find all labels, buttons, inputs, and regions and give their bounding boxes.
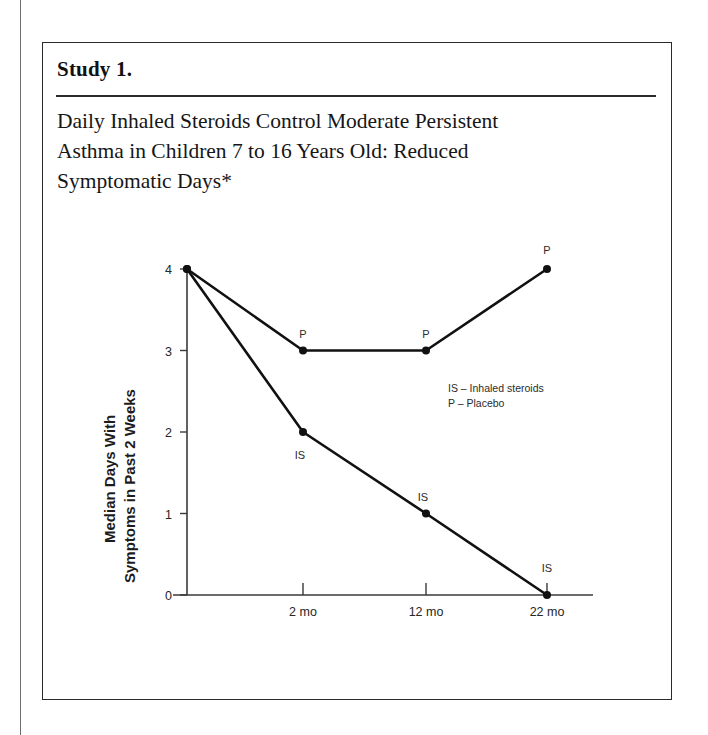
x-tick-label-22mo: 22 mo — [530, 605, 565, 619]
point-label-placebo-2mo: P — [299, 328, 306, 340]
point-label-is-12mo: IS — [418, 491, 428, 503]
data-point-is-2mo — [299, 428, 307, 436]
data-point-placebo-12mo — [422, 347, 430, 355]
data-point-is-12mo — [422, 510, 430, 518]
x-axis-ticks — [303, 583, 547, 595]
y-tick-label-4: 4 — [165, 263, 172, 277]
data-point-is-baseline — [183, 265, 191, 273]
point-label-is-2mo: IS — [295, 449, 305, 461]
y-tick-label-2: 2 — [165, 426, 172, 440]
y-tick-label-1: 1 — [165, 508, 172, 522]
series-points-inhaled-steroids — [183, 265, 551, 599]
series-line-placebo — [187, 269, 547, 351]
y-axis-ticks — [180, 269, 187, 595]
x-tick-label-2mo: 2 mo — [289, 605, 317, 619]
point-label-placebo-12mo: P — [422, 328, 429, 340]
x-tick-label-12mo: 12 mo — [409, 605, 444, 619]
data-point-placebo-2mo — [299, 347, 307, 355]
y-axis-title-line1: Median Days With — [101, 415, 118, 543]
legend-entry-placebo: P – Placebo — [448, 397, 505, 409]
page-spine-edge — [20, 0, 21, 735]
data-point-placebo-22mo — [543, 265, 551, 273]
figure-box: Study 1. Daily Inhaled Steroids Control … — [42, 42, 672, 700]
x-axis-tick-labels: 2 mo 12 mo 22 mo — [289, 605, 564, 619]
y-axis-title-line2: Symptoms in Past 2 Weeks — [121, 389, 138, 583]
point-label-placebo-22mo: P — [543, 244, 550, 256]
legend-entry-inhaled-steroids: IS – Inhaled steroids — [448, 382, 544, 394]
y-axis-title: Median Days With Symptoms in Past 2 Week… — [101, 389, 138, 583]
series-line-inhaled-steroids — [187, 269, 547, 595]
line-chart: Median Days With Symptoms in Past 2 Week… — [43, 43, 673, 701]
y-tick-label-0: 0 — [165, 589, 172, 603]
scanned-page: Study 1. Daily Inhaled Steroids Control … — [0, 0, 708, 735]
data-point-is-22mo — [543, 591, 551, 599]
chart-legend: IS – Inhaled steroids P – Placebo — [448, 382, 544, 409]
point-label-is-22mo: IS — [542, 562, 552, 574]
y-axis-tick-labels: 0 1 2 3 4 — [165, 263, 172, 603]
y-tick-label-3: 3 — [165, 345, 172, 359]
